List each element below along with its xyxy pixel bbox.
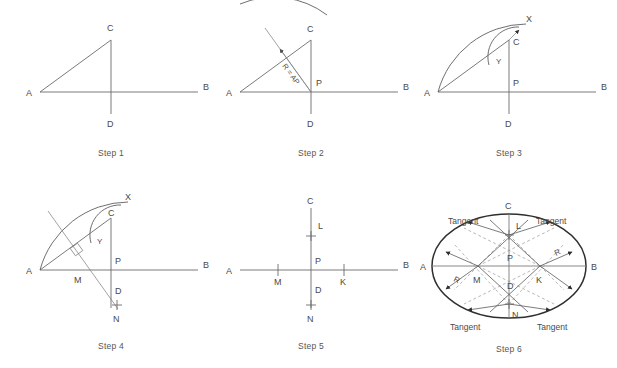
point-label-d: D: [507, 281, 514, 291]
point-label-x: X: [125, 192, 131, 202]
step-3-drawing: A B C D P X Y: [406, 2, 612, 142]
point-label-d: D: [107, 119, 114, 129]
point-label-c: C: [505, 201, 512, 211]
step-6-panel: A B C D P L M K N R R Tangent Tangent Ta…: [406, 186, 612, 368]
dash-k-upper-left: [464, 228, 540, 266]
arc-radius-ap: [240, 0, 327, 15]
point-label-c: C: [513, 37, 520, 47]
step-3-caption: Step 3: [406, 148, 612, 158]
step-6-caption: Step 6: [406, 344, 612, 354]
step-2-panel: R = AP A B C D P Step 2: [208, 2, 414, 186]
ray-k-to-upper-left: [490, 220, 540, 266]
step-1-panel: A B C D Step 1: [8, 2, 214, 186]
point-label-l: L: [318, 221, 323, 231]
point-label-x: X: [526, 14, 532, 24]
step-3-panel: A B C D P X Y Step 3: [406, 2, 612, 186]
point-label-d: D: [315, 285, 322, 295]
ray-k-lower-right: [540, 266, 572, 289]
step-4-panel: A B C D P X Y M N Step 4: [8, 186, 214, 368]
point-label-c: C: [307, 196, 314, 206]
point-label-n: N: [307, 314, 314, 324]
point-label-c: C: [108, 208, 115, 218]
step-2-caption: Step 2: [208, 148, 414, 158]
point-label-a: A: [226, 266, 232, 276]
radius-guide: [265, 28, 311, 92]
point-label-c: C: [307, 24, 314, 34]
point-label-l: L: [516, 221, 521, 231]
point-label-d: D: [307, 119, 314, 129]
line-ac: [240, 40, 311, 92]
point-label-k: K: [340, 277, 346, 287]
dash-k-lower-left: [464, 266, 540, 304]
arc-label-y: Y: [97, 237, 103, 246]
step-6-drawing: A B C D P L M K N R R Tangent Tangent Ta…: [406, 186, 612, 336]
ray-m-upper-left: [446, 252, 478, 266]
point-label-n: N: [512, 310, 519, 320]
step-5-drawing: A B C D P L M K N: [208, 186, 414, 336]
point-label-n: N: [113, 314, 120, 324]
point-label-m: M: [473, 275, 481, 285]
tangent-label-bottom-right: Tangent: [537, 322, 568, 332]
point-label-a: A: [26, 266, 32, 276]
perpendicular-bisector: [48, 211, 118, 309]
dash-n-upper-left: [454, 244, 509, 304]
step-5-panel: A B C D P L M K N Step 5: [208, 186, 414, 368]
point-label-b: B: [591, 262, 597, 272]
point-label-c: C: [107, 23, 114, 33]
step-4-drawing: A B C D P X Y M N: [8, 186, 214, 336]
point-label-d: D: [115, 286, 122, 296]
point-label-d: D: [505, 119, 512, 129]
point-label-m: M: [74, 275, 82, 285]
step-1-caption: Step 1: [8, 148, 214, 158]
ray-n-lower-left: [468, 304, 509, 310]
point-label-b: B: [601, 82, 607, 92]
arc-label-y: Y: [496, 57, 502, 66]
step-2-drawing: R = AP A B C D P: [208, 2, 414, 142]
step-5-caption: Step 5: [208, 341, 414, 351]
point-label-a: A: [226, 88, 232, 98]
point-label-a: A: [420, 262, 426, 272]
line-ac: [438, 40, 509, 92]
point-label-p: P: [316, 78, 322, 88]
step-1-drawing: A B C D: [8, 2, 214, 142]
dash-m-lower-right: [478, 266, 554, 304]
tangent-label-top-right: Tangent: [536, 216, 567, 226]
construction-figure-sheet: A B C D Step 1 R = AP A B C D P: [0, 0, 617, 368]
point-label-p: P: [507, 253, 513, 263]
line-ac: [40, 40, 111, 92]
point-label-p: P: [115, 256, 121, 266]
step-4-caption: Step 4: [8, 341, 214, 351]
point-label-m: M: [274, 277, 282, 287]
arc-y-at-c: [90, 205, 121, 243]
dash-m-upper-right: [478, 228, 554, 266]
tangent-label-bottom-left: Tangent: [450, 322, 481, 332]
point-label-a: A: [26, 88, 32, 98]
point-label-p: P: [513, 78, 519, 88]
tangent-label-top-left: Tangent: [448, 216, 479, 226]
point-label-p: P: [315, 256, 321, 266]
point-label-a: A: [424, 88, 430, 98]
point-label-k: K: [536, 275, 542, 285]
radius-label-right: R: [553, 247, 562, 258]
